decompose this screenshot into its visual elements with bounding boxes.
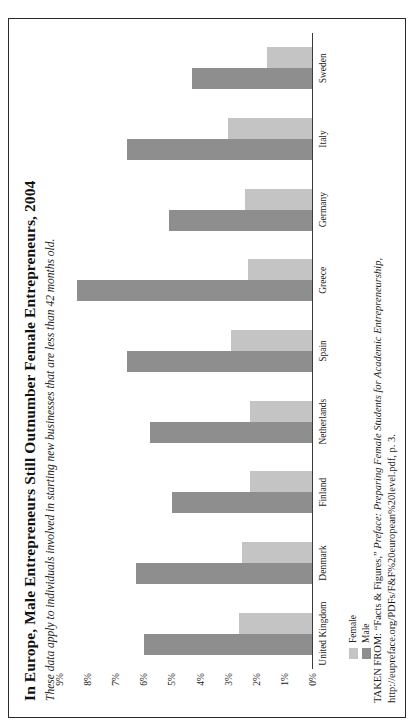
- legend-item-female: Female: [348, 615, 358, 659]
- bar-male: [127, 351, 312, 372]
- legend-swatch-female-icon: [349, 648, 358, 659]
- bar-female: [228, 118, 312, 139]
- x-axis-category-label: Germany: [313, 174, 365, 245]
- y-axis-tick-label: 5%: [167, 673, 177, 686]
- x-axis-category-label: Netherlands: [313, 386, 365, 457]
- bar-group: [60, 386, 312, 457]
- chart-body: 9%8%7%6%5%4%3%2%1%0%: [60, 33, 313, 703]
- bar-group: [60, 316, 312, 387]
- figure-subtitle: These data apply to individuals involved…: [44, 33, 56, 701]
- legend-swatch-male-icon: [362, 648, 371, 659]
- chart-plot-wrapper: 9%8%7%6%5%4%3%2%1%0% United KingdomDenma…: [60, 33, 365, 703]
- bar-male: [169, 210, 312, 231]
- x-axis-category-label: Italy: [313, 104, 365, 175]
- y-axis-tick-label: 0%: [308, 673, 318, 686]
- y-axis-tick-label: 9%: [55, 673, 65, 686]
- bar-male: [127, 139, 312, 160]
- figure-frame: In Europe, Male Entrepreneurs Still Outn…: [8, 18, 406, 718]
- bar-male: [192, 68, 312, 89]
- bar-chart: 9%8%7%6%5%4%3%2%1%0% United KingdomDenma…: [60, 33, 365, 703]
- bar-male: [144, 634, 312, 655]
- rotated-figure-container: In Europe, Male Entrepreneurs Still Outn…: [0, 0, 414, 728]
- legend-label-female: Female: [348, 615, 358, 643]
- bar-female: [248, 259, 312, 280]
- bar-female: [245, 189, 312, 210]
- y-axis-tick-label: 7%: [111, 673, 121, 686]
- legend-item-male: Male: [361, 615, 371, 659]
- bar-female: [242, 542, 312, 563]
- legend-label-male: Male: [361, 623, 371, 643]
- y-axis-tick-label: 3%: [224, 673, 234, 686]
- bar-group: [60, 528, 312, 599]
- bar-group: [60, 598, 312, 669]
- bar-male: [150, 422, 312, 443]
- y-axis-tick-label: 8%: [83, 673, 93, 686]
- source-suffix: http://eupreface.org/PDFs/F&F%20european…: [386, 434, 397, 703]
- y-axis-tick-label: 4%: [196, 673, 206, 686]
- bar-female: [267, 47, 312, 68]
- source-italic-title: Preface: Preparing Female Students for A…: [372, 258, 383, 549]
- x-axis-category-label: Greece: [313, 245, 365, 316]
- x-axis-category-labels: United KingdomDenmarkFinlandNetherlandsS…: [313, 33, 365, 669]
- chart-legend: Female Male: [348, 615, 371, 659]
- bar-group: [60, 104, 312, 175]
- figure-page: In Europe, Male Entrepreneurs Still Outn…: [0, 0, 414, 728]
- source-prefix: TAKEN FROM: “Facts & Figures,”: [372, 549, 383, 703]
- source-citation: TAKEN FROM: “Facts & Figures,” Preface: …: [371, 33, 399, 703]
- x-axis-category-label: Spain: [313, 316, 365, 387]
- bar-male: [136, 563, 312, 584]
- y-axis-tick-label: 1%: [280, 673, 290, 686]
- figure-title: In Europe, Male Entrepreneurs Still Outn…: [21, 33, 39, 701]
- bar-female: [239, 613, 312, 634]
- bar-female: [231, 330, 312, 351]
- bar-group: [60, 174, 312, 245]
- plot-area: [60, 33, 313, 669]
- bar-group: [60, 457, 312, 528]
- x-axis-category-label: Finland: [313, 457, 365, 528]
- bar-group: [60, 245, 312, 316]
- bar-male: [77, 280, 312, 301]
- bar-female: [250, 401, 312, 422]
- bar-group: [60, 33, 312, 104]
- bar-female: [250, 471, 312, 492]
- bar-male: [172, 492, 312, 513]
- y-axis: 9%8%7%6%5%4%3%2%1%0%: [60, 669, 313, 703]
- x-axis-category-label: Denmark: [313, 528, 365, 599]
- y-axis-tick-label: 2%: [252, 673, 262, 686]
- x-axis-category-label: Sweden: [313, 33, 365, 104]
- y-axis-tick-label: 6%: [139, 673, 149, 686]
